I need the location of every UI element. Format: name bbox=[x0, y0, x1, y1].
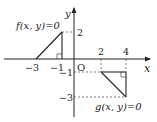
y-axis-label: y bbox=[64, 8, 71, 19]
x-tick-label: 2 bbox=[98, 46, 104, 57]
region-f-label: f(x, y)=0 bbox=[15, 20, 61, 31]
coordinate-diagram: x y O −3 −1 2 4 2 −1 −3 f(x, y)=0 g(x, y… bbox=[0, 0, 157, 122]
x-tick-label: −3 bbox=[25, 62, 39, 73]
y-tick-label: −1 bbox=[59, 67, 73, 78]
region-g bbox=[101, 72, 126, 97]
origin-label: O bbox=[77, 62, 85, 73]
x-axis-label: x bbox=[144, 62, 151, 75]
right-angle-mark-g bbox=[121, 72, 126, 77]
x-tick-label: 4 bbox=[123, 46, 129, 57]
y-tick-label: −3 bbox=[59, 92, 73, 103]
region-g-label: g(x, y)=0 bbox=[95, 101, 142, 112]
region-f bbox=[36, 32, 62, 59]
y-tick-label: 2 bbox=[77, 27, 83, 38]
right-angle-mark-f bbox=[57, 54, 62, 59]
